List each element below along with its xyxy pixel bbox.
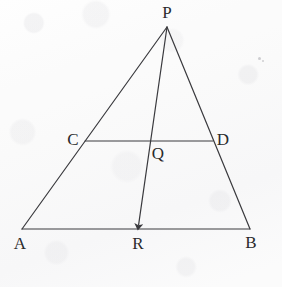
vertex-label-C: C — [67, 131, 79, 148]
vertex-label-A: A — [14, 235, 26, 252]
paper-speck — [262, 60, 264, 62]
side-AP — [22, 27, 167, 229]
vertex-label-R: R — [132, 235, 144, 252]
paper-speck — [258, 57, 261, 60]
side-PB — [167, 27, 250, 229]
vertex-label-D: D — [217, 131, 229, 148]
vertex-label-Q: Q — [152, 145, 164, 162]
vertex-label-B: B — [245, 234, 257, 251]
cevian-PR — [139, 27, 167, 225]
segments-group — [22, 27, 250, 229]
vertex-label-P: P — [162, 4, 172, 21]
geometry-figure: P A B C D Q R — [0, 0, 282, 287]
